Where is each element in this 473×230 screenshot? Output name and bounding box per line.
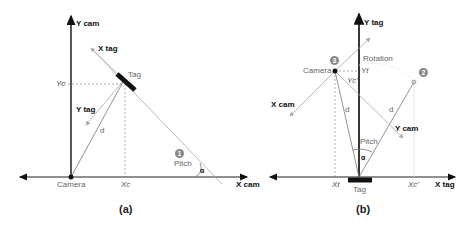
- pitch-arc-b: [353, 149, 372, 152]
- tag-label-b: Tag: [353, 186, 366, 194]
- yc-prime-label: Yc': [347, 77, 358, 85]
- marker-1-icon: 1: [175, 149, 184, 158]
- tag-label: Tag: [128, 71, 141, 79]
- alpha-label: α: [200, 167, 204, 174]
- y-tag-line: [86, 80, 124, 125]
- xt-label: Xt: [332, 181, 340, 189]
- x-cam-label-b: X cam: [271, 101, 295, 109]
- x-cam-label: X cam: [236, 181, 260, 189]
- y-tag-label-b: Y tag: [364, 19, 383, 27]
- x-cam-line: [290, 71, 335, 116]
- caption-b: (b): [356, 204, 370, 215]
- xc-prime-label: Xc': [408, 181, 419, 189]
- marker-3-icon: 3: [330, 56, 339, 65]
- y-cam-label: Y cam: [76, 20, 99, 28]
- rotation-label: Rotation: [363, 55, 393, 63]
- panel-a: [20, 16, 247, 184]
- d-label-left: d: [345, 106, 349, 114]
- caption-a: (a): [119, 204, 132, 215]
- diagram-canvas: [0, 0, 473, 230]
- camera-point: [69, 175, 74, 180]
- camera-label: Camera: [57, 181, 85, 189]
- d-label-right: d: [389, 106, 393, 114]
- camera-point-b: [333, 69, 338, 74]
- pitch-label: Pitch: [174, 160, 192, 168]
- x-tag-label-b: X tag: [435, 181, 455, 189]
- y-cam-label-b: Y cam: [395, 125, 418, 133]
- d-label: d: [100, 127, 104, 135]
- rotated-point: [412, 80, 416, 84]
- yc-label: Yc: [56, 80, 65, 88]
- distance-line-d: [71, 80, 124, 177]
- yt-label: Yt: [361, 67, 369, 75]
- camera-label-b: Camera: [303, 67, 331, 75]
- x-tag-line: [91, 48, 222, 184]
- distance-line-left: [335, 71, 359, 177]
- x-tag-label: X tag: [98, 45, 118, 53]
- xc-label: Xc: [121, 181, 130, 189]
- pitch-label-b: Pitch: [360, 138, 378, 146]
- y-tag-label: Y tag: [76, 106, 95, 114]
- marker-2-icon: 2: [419, 68, 428, 77]
- alpha-label-b: α: [361, 154, 365, 161]
- figure: Y cam X tag Tag Yc Y tag d 1 Pitch α Cam…: [0, 0, 473, 230]
